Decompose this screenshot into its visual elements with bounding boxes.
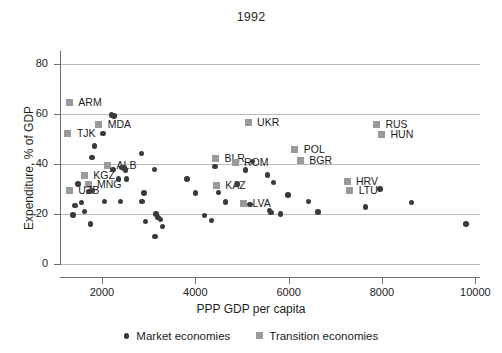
chart-title: 1992 xyxy=(0,10,502,24)
transition-economy-point xyxy=(373,121,380,128)
y-tick xyxy=(54,264,61,265)
transition-economy-point xyxy=(81,172,88,179)
market-economy-point xyxy=(268,210,274,216)
market-economy-point xyxy=(82,209,88,215)
market-economy-point xyxy=(315,209,321,215)
x-tick-label: 10000 xyxy=(445,286,502,298)
transition-economy-point xyxy=(66,187,73,194)
market-economy-point xyxy=(409,200,415,206)
x-tick-label: 8000 xyxy=(352,286,412,298)
market-economy-point xyxy=(160,224,166,230)
transition-economy-point xyxy=(64,130,71,137)
market-economy-point xyxy=(70,212,76,218)
market-economy-point xyxy=(285,192,291,198)
x-tick xyxy=(195,277,196,284)
market-economy-point xyxy=(75,181,81,187)
x-axis-line xyxy=(60,277,480,278)
transition-economy-point xyxy=(344,178,351,185)
x-axis-title: PPP GDP per capita xyxy=(0,302,502,316)
market-economy-point xyxy=(139,151,145,157)
scatter-chart: 1992 Expenditure, % of GDP PPP GDP per c… xyxy=(0,0,502,353)
market-economy-point xyxy=(139,199,145,205)
market-economy-point xyxy=(271,180,277,186)
transition-economy-point xyxy=(346,187,353,194)
transition-economy-point xyxy=(95,121,102,128)
x-tick xyxy=(289,277,290,284)
market-economy-point xyxy=(306,199,312,205)
x-tick-label: 6000 xyxy=(259,286,319,298)
transition-economy-point xyxy=(291,146,298,153)
market-economy-point xyxy=(141,190,147,196)
market-economy-point xyxy=(79,200,85,206)
market-economy-point xyxy=(72,203,78,209)
market-economy-point xyxy=(363,204,369,210)
market-economy-point xyxy=(124,176,130,182)
market-economy-point xyxy=(111,113,117,119)
market-economy-point xyxy=(235,181,241,187)
market-economies-marker-icon xyxy=(124,333,130,339)
market-economy-point xyxy=(463,221,469,227)
market-economy-point xyxy=(278,211,284,217)
point-label-mda: MDA xyxy=(108,118,131,130)
market-economy-point xyxy=(193,190,199,196)
market-economy-point xyxy=(88,221,94,227)
point-label-tjk: TJK xyxy=(77,127,96,139)
market-economy-point xyxy=(118,199,124,205)
y-tick-label: 0 xyxy=(14,257,48,269)
transition-economies-marker-icon xyxy=(256,332,263,339)
point-label-ukr: UKR xyxy=(257,116,279,128)
market-economy-point xyxy=(209,218,215,224)
market-economy-point xyxy=(89,155,95,161)
legend-label-transition: Transition economies xyxy=(269,330,378,342)
transition-economy-point xyxy=(212,155,219,162)
market-economy-point xyxy=(223,199,229,205)
market-economy-point xyxy=(216,190,222,196)
market-economy-point xyxy=(212,164,218,170)
point-label-arm: ARM xyxy=(78,96,101,108)
transition-economy-point xyxy=(240,200,247,207)
x-tick-label: 4000 xyxy=(165,286,225,298)
x-tick xyxy=(102,277,103,284)
transition-economy-point xyxy=(66,99,73,106)
market-economy-point xyxy=(202,213,208,219)
chart-legend: Market economiesTransition economies xyxy=(0,329,502,342)
y-tick-label: 60 xyxy=(14,107,48,119)
market-economy-point xyxy=(92,143,98,149)
market-economy-point xyxy=(110,167,116,173)
market-economy-point xyxy=(102,199,108,205)
y-tick-label: 40 xyxy=(14,157,48,169)
transition-economy-point xyxy=(245,119,252,126)
market-economy-point xyxy=(100,131,106,137)
market-economy-point xyxy=(116,176,122,182)
transition-economy-point xyxy=(297,157,304,164)
market-economy-point xyxy=(184,176,190,182)
market-economy-point xyxy=(247,202,253,208)
point-label-bgr: BGR xyxy=(309,154,332,166)
point-label-ltu: LTU xyxy=(359,184,378,196)
plot-area: ARMTJKMDAALBKGZMNGUZBBLRROMUKRPOLBGRKAZL… xyxy=(60,51,480,264)
x-tick xyxy=(382,277,383,284)
transition-economy-point xyxy=(232,159,239,166)
market-economy-point xyxy=(243,167,249,173)
x-tick xyxy=(475,277,476,284)
point-label-hun: HUN xyxy=(391,128,414,140)
market-economy-point xyxy=(143,219,149,225)
x-tick-label: 2000 xyxy=(72,286,132,298)
point-label-rom: ROM xyxy=(244,156,269,168)
market-economy-point xyxy=(377,186,383,192)
y-tick-label: 20 xyxy=(14,207,48,219)
market-economy-point xyxy=(123,167,129,173)
legend-label-market: Market economies xyxy=(136,330,230,342)
market-economy-point xyxy=(265,172,271,178)
market-economy-point xyxy=(152,234,158,240)
market-economy-point xyxy=(158,217,164,223)
gridline xyxy=(60,264,480,265)
transition-economy-point xyxy=(378,131,385,138)
market-economy-point xyxy=(152,167,158,173)
transition-economy-point xyxy=(213,182,220,189)
y-tick-label: 80 xyxy=(14,57,48,69)
